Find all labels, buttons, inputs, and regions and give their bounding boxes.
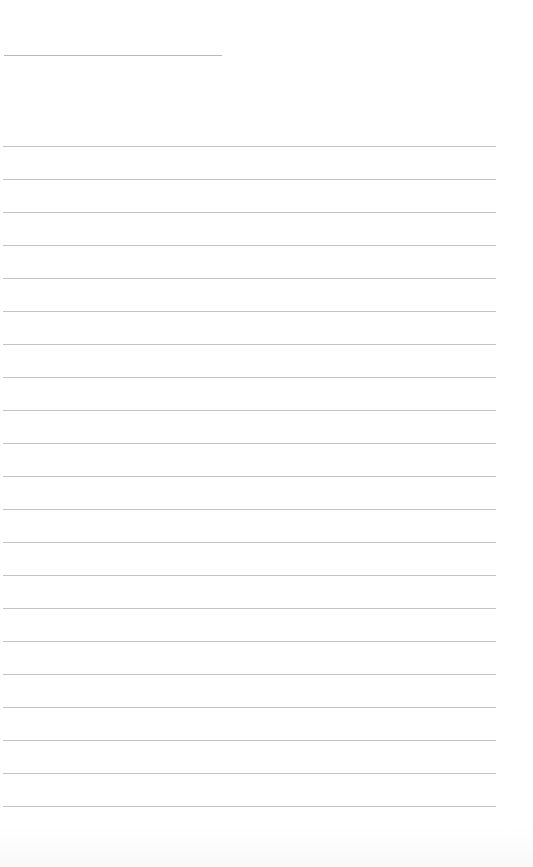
- ruled-line: [3, 608, 496, 609]
- ruled-line: [3, 245, 496, 246]
- ruled-line: [3, 806, 496, 807]
- ruled-line: [3, 707, 496, 708]
- ruled-line: [3, 476, 496, 477]
- ruled-line: [3, 311, 496, 312]
- ruled-line: [3, 344, 496, 345]
- ruled-line: [3, 179, 496, 180]
- ruled-line: [3, 278, 496, 279]
- ruled-line: [3, 641, 496, 642]
- lined-paper-page: [0, 0, 533, 867]
- ruled-line: [3, 443, 496, 444]
- ruled-line: [3, 674, 496, 675]
- ruled-line: [3, 542, 496, 543]
- page-edge-shade: [0, 827, 533, 867]
- ruled-line: [3, 773, 496, 774]
- ruled-line: [3, 410, 496, 411]
- ruled-line: [3, 509, 496, 510]
- ruled-line: [3, 146, 496, 147]
- ruled-lines: [3, 0, 496, 867]
- ruled-line: [3, 377, 496, 378]
- ruled-line: [3, 212, 496, 213]
- ruled-line: [3, 740, 496, 741]
- ruled-line: [3, 575, 496, 576]
